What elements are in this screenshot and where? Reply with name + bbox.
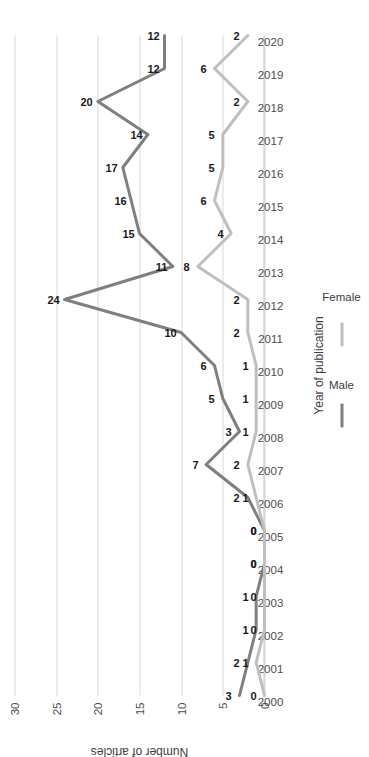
data-point-label: 10 (164, 326, 176, 338)
data-point-label: 0 (250, 623, 256, 635)
data-point-label: 1 (242, 359, 248, 371)
data-point-label: 1 (242, 392, 248, 404)
data-point-label: 2 (233, 326, 239, 338)
legend-swatch-icon (340, 322, 343, 346)
data-point-label: 12 (147, 62, 159, 74)
y-tick-label: 25 (50, 702, 62, 715)
data-point-label: 1 (242, 491, 248, 503)
data-point-label: 3 (225, 689, 231, 701)
data-point-label: 1 (242, 425, 248, 437)
data-point-label: 6 (200, 62, 206, 74)
plot-area: 051015202530 200020012002200320042005200… (14, 35, 264, 695)
data-point-label: 11 (156, 260, 168, 272)
chart-canvas: Number of articles Year of publication 0… (0, 0, 369, 757)
data-point-label: 4 (217, 227, 223, 239)
data-point-label: 0 (250, 524, 256, 536)
data-point-label: 5 (208, 392, 214, 404)
data-point-label: 6 (200, 359, 206, 371)
data-point-label: 0 (250, 557, 256, 569)
data-point-label: 0 (250, 590, 256, 602)
data-point-label: 5 (208, 128, 214, 140)
data-point-label: 1 (242, 656, 248, 668)
legend-item-male[interactable]: Male (335, 372, 347, 427)
data-point-label: 2 (233, 656, 239, 668)
data-point-label: 2 (233, 293, 239, 305)
data-point-label: 2 (233, 458, 239, 470)
x-tick-label: 2000 (257, 695, 283, 707)
y-axis-title: Number of articles (90, 744, 187, 757)
data-point-label: 15 (122, 227, 134, 239)
rotated-chart-stage: Number of articles Year of publication 0… (0, 0, 369, 757)
x-axis-title: Year of publication (311, 316, 325, 414)
y-tick-label: 30 (8, 702, 20, 715)
y-tick-label: 10 (175, 702, 187, 715)
legend: MaleFemale (335, 278, 347, 427)
data-point-label: 17 (105, 161, 117, 173)
data-point-label: 8 (183, 260, 189, 272)
data-point-label: 5 (208, 161, 214, 173)
plot-host: Number of articles Year of publication 0… (0, 0, 369, 757)
legend-label: Male (329, 379, 354, 391)
data-point-label: 7 (192, 458, 198, 470)
data-point-label: 1 (242, 590, 248, 602)
legend-label: Female (322, 291, 360, 303)
data-point-label: 0 (250, 689, 256, 701)
data-point-label: 1 (242, 623, 248, 635)
data-point-label: 20 (80, 95, 92, 107)
data-point-label: 24 (47, 293, 59, 305)
data-point-label: 16 (114, 194, 126, 206)
data-point-label: 12 (147, 29, 159, 41)
legend-item-female[interactable]: Female (335, 278, 347, 346)
data-point-label: 2 (233, 95, 239, 107)
y-tick-label: 15 (133, 702, 145, 715)
series-line-male (64, 35, 264, 695)
legend-swatch-icon (340, 403, 343, 427)
data-point-label: 6 (200, 194, 206, 206)
data-point-label: 2 (233, 491, 239, 503)
y-tick-label: 20 (91, 702, 103, 715)
data-point-label: 2 (233, 29, 239, 41)
data-point-label: 3 (225, 425, 231, 437)
y-tick-label: 5 (216, 702, 228, 708)
data-point-label: 14 (130, 128, 142, 140)
